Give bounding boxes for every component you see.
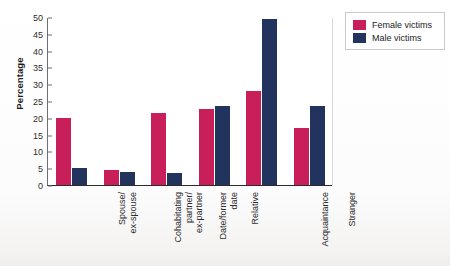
bar-female [104,170,119,185]
y-axis-tick-mark [48,34,52,35]
x-axis-label-line: Acquaintance [319,192,329,247]
bar-male [215,106,230,185]
y-axis-tick-label: 0 [38,181,48,191]
y-axis-tick-mark [48,186,52,187]
x-axis-label-line: Relative [250,192,260,225]
bar-male [310,106,325,185]
y-axis-tick-mark [48,51,52,52]
x-axis-label: Date/formerdate [217,192,238,240]
y-axis-tick-label: 5 [38,164,48,174]
x-axis-label-line: ex-spouse [127,192,137,234]
bar-female [294,128,309,185]
y-axis-tick-mark [48,18,52,19]
x-axis-label-line: Stranger [347,192,357,227]
x-axis-label-line: Spouse/ [116,192,126,225]
y-axis-tick-mark [48,152,52,153]
x-axis-label-line: partner/ [183,192,193,223]
chart-legend: Female victimsMale victims [345,12,445,50]
x-axis-label-line: Cohabitating [173,192,183,243]
legend-label: Female victims [372,20,432,30]
x-axis-label: Cohabitatingpartner/ex-partner [173,192,205,243]
y-axis-tick-label: 25 [33,97,48,107]
y-axis-title: Percentage [14,29,25,139]
y-axis-tick-mark [48,118,52,119]
bar-female [246,91,261,185]
y-axis-tick-mark [48,85,52,86]
y-axis-tick-label: 40 [33,47,48,57]
chart-figure: Percentage 05101520253035404550 Spouse/e… [0,0,450,266]
plot-panel-right-border [332,18,333,186]
y-axis-tick-label: 35 [33,63,48,73]
legend-item: Male victims [353,31,438,44]
x-axis-label: Acquaintance [319,192,330,247]
y-axis-tick-label: 30 [33,80,48,90]
x-axis-label-line: ex-partner [194,192,204,233]
legend-swatch-male [353,33,366,43]
bar-female [151,113,166,185]
y-axis-tick-label: 50 [33,13,48,23]
bar-male [120,172,135,185]
plot-area: 05101520253035404550 [47,18,332,186]
legend-label: Male victims [372,33,422,43]
bar-female [56,118,71,185]
x-axis-label: Relative [250,192,261,225]
y-axis-tick-mark [48,102,52,103]
y-axis-tick-mark [48,68,52,69]
x-axis-label: Stranger [347,192,358,227]
bar-male [72,168,87,185]
legend-item: Female victims [353,18,438,31]
bar-male [262,19,277,185]
y-axis-tick-label: 15 [33,131,48,141]
y-axis-tick-label: 10 [33,147,48,157]
caption-strip [0,254,450,266]
y-axis-tick-mark [48,169,52,170]
bar-male [167,173,182,185]
legend-swatch-female [353,20,366,30]
x-axis-label-line: Date/former [217,192,227,240]
bar-female [199,109,214,185]
x-axis-label-line: date [228,192,238,210]
x-axis-label: Spouse/ex-spouse [116,192,137,234]
y-axis-tick-mark [48,135,52,136]
y-axis-tick-label: 20 [33,114,48,124]
y-axis-tick-label: 45 [33,30,48,40]
